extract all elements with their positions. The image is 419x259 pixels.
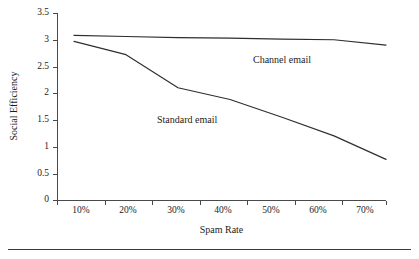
- chart-figure: 3.5 3 2.5 2 1.5 1 0.5 0 10% 20% 30% 40% …: [0, 0, 419, 259]
- series-label-channel-email: Channel email: [253, 54, 311, 66]
- series-line-channel-email: [74, 35, 386, 45]
- footer-rule: [8, 249, 411, 250]
- series-label-standard-email: Standard email: [157, 114, 217, 126]
- series-line-standard-email: [74, 41, 386, 159]
- plot-area: [0, 0, 419, 259]
